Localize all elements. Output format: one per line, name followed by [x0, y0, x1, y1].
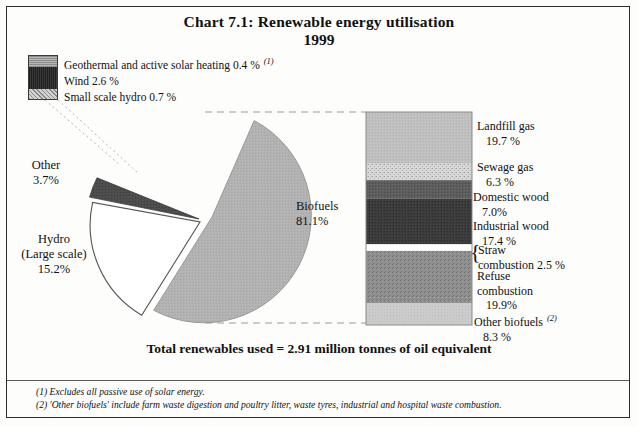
- pie-label-other: Other 3.7%: [8, 158, 84, 188]
- bar-label-straw-combustion: Straw combustion 2.5 %: [478, 243, 565, 272]
- bar-label-landfill-gas: Landfill gas 19.7 %: [477, 119, 535, 148]
- bar-label-refuse-combustion: Refuse combustion 19.9%: [477, 269, 533, 313]
- bar-label-domestic-wood: Domestic wood 7.0%: [473, 190, 549, 219]
- pie-label-other-value: 3.7%: [8, 173, 84, 188]
- bar-segment-sewage-gas: [366, 164, 472, 181]
- total-renewables-caption: Total renewables used = 2.91 million ton…: [0, 341, 638, 357]
- bar-segment-domestic-wood: [366, 180, 472, 198]
- footnote-2: (2) 'Other biofuels' include farm waste …: [36, 399, 616, 412]
- bar-segment-straw-combustion: [366, 244, 472, 251]
- bar-label-sewage-gas-value: 6.3 %: [477, 175, 533, 190]
- bar-label-landfill-gas-value: 19.7 %: [477, 134, 535, 149]
- bar-label-refuse-combustion-name-line-1: Refuse: [477, 269, 510, 283]
- legend-item-geothermal-solar-label: Geothermal and active solar heating 0.4 …: [64, 59, 260, 71]
- bar-label-sewage-gas: Sewage gas 6.3 %: [477, 160, 533, 189]
- bar-label-domestic-wood-value: 7.0%: [473, 205, 549, 220]
- footnote-1: (1) Excludes all passive use of solar en…: [36, 386, 616, 399]
- pie-chart: [90, 121, 312, 323]
- bar-label-straw-combustion-name: Straw: [478, 243, 506, 257]
- footnote-marker-1: (1): [264, 56, 274, 66]
- bar-label-refuse-combustion-name-line-2: combustion: [477, 284, 533, 299]
- bar-label-domestic-wood-name: Domestic wood: [473, 190, 549, 204]
- pie-label-other-name: Other: [8, 158, 84, 173]
- pie-label-biofuels-value: 81.1%: [296, 214, 382, 229]
- bar-segment-refuse-combustion: [366, 251, 472, 303]
- legend-label-list: Geothermal and active solar heating 0.4 …: [64, 53, 274, 105]
- pie-label-hydro-large-scale: Hydro (Large scale) 15.2%: [2, 232, 106, 277]
- bar-label-sewage-gas-name: Sewage gas: [477, 160, 533, 174]
- bar-label-other-biofuels: Other biofuels(2) 8.3 %: [474, 311, 557, 344]
- legend-item-wind: Wind 2.6 %: [64, 73, 274, 89]
- pie-label-hydro-value: 15.2%: [2, 262, 106, 277]
- legend-item-wind-label: Wind 2.6 %: [64, 75, 119, 87]
- chart-page: Chart 7.1: Renewable energy utilisation …: [0, 0, 638, 427]
- connector-legend-top: [45, 100, 120, 165]
- legend-swatch-stack: [28, 55, 58, 100]
- bar-segment-landfill-gas: [366, 112, 472, 164]
- pie-label-hydro-name-line-1: Hydro: [2, 232, 106, 247]
- legend-swatch-wind: [29, 67, 57, 89]
- pie-label-hydro-name-line-2: (Large scale): [2, 247, 106, 262]
- legend-item-small-scale-hydro: Small scale hydro 0.7 %: [64, 89, 274, 105]
- bar-segment-other-biofuels: [366, 303, 472, 325]
- bar-label-industrial-wood-name: Industrial wood: [473, 219, 549, 233]
- bar-label-other-biofuels-name: Other biofuels: [474, 315, 543, 329]
- footnote-marker-2: (2): [547, 313, 557, 323]
- footnotes-block: (1) Excludes all passive use of solar en…: [36, 386, 616, 411]
- legend-swatch-small-scale-hydro: [29, 89, 57, 99]
- pie-label-biofuels: Biofuels 81.1%: [296, 199, 382, 229]
- bar-label-landfill-gas-name: Landfill gas: [477, 119, 535, 133]
- legend-item-small-scale-hydro-label: Small scale hydro 0.7 %: [64, 91, 176, 103]
- legend-swatch-geothermal-solar: [29, 56, 57, 67]
- legend-item-geothermal-solar: Geothermal and active solar heating 0.4 …: [64, 53, 274, 73]
- pie-label-biofuels-name: Biofuels: [296, 199, 382, 214]
